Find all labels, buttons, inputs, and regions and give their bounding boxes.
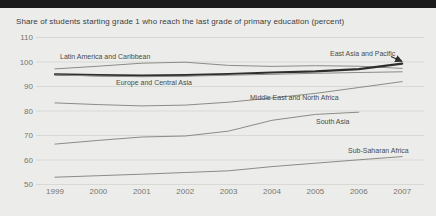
y-tick-label: 70 — [24, 131, 33, 140]
trend-arrow — [391, 57, 402, 62]
x-tick-label: 1999 — [46, 187, 64, 196]
x-tick-label: 2005 — [307, 187, 325, 196]
chart-svg: 1101009080706050199920002001200220032004… — [0, 0, 436, 216]
y-tick-label: 90 — [24, 82, 33, 91]
y-tick-label: 60 — [24, 156, 33, 165]
chart-plot-area: 1101009080706050199920002001200220032004… — [20, 33, 424, 196]
x-tick-label: 2002 — [176, 187, 194, 196]
x-tick-label: 2006 — [350, 187, 368, 196]
x-tick-label: 2000 — [90, 187, 108, 196]
y-tick-label: 110 — [20, 33, 33, 42]
y-tick-label: 100 — [20, 58, 34, 67]
series-label: Europe and Central Asia — [116, 79, 192, 87]
series-label: South Asia — [316, 118, 350, 125]
x-tick-label: 2001 — [133, 187, 151, 196]
series-label: Middle East and North Africa — [250, 94, 339, 101]
y-tick-label: 50 — [24, 180, 33, 189]
series-label: East Asia and Pacific — [330, 50, 396, 57]
series-line-south-asia — [55, 112, 359, 144]
report-figure: Share of students starting grade 1 who r… — [0, 0, 436, 216]
series-line-latin-america-and-caribbean — [55, 62, 402, 69]
series-label: Sub-Saharan Africa — [348, 147, 409, 154]
y-tick-label: 80 — [24, 107, 33, 116]
series-label: Latin America and Caribbean — [60, 53, 150, 60]
x-tick-label: 2004 — [263, 187, 281, 196]
x-tick-label: 2003 — [220, 187, 238, 196]
x-tick-label: 2007 — [393, 187, 411, 196]
series-line-middle-east-and-north-africa — [55, 82, 402, 106]
